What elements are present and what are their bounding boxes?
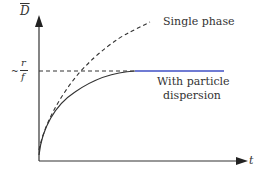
y-tick-numerator: r (21, 57, 26, 68)
y-tick-prefix: ~ (11, 66, 19, 76)
particle-dispersion-curve (39, 71, 135, 155)
y-axis-arrow-icon (35, 15, 43, 27)
particle-dispersion-label-line2: dispersion (163, 89, 221, 102)
particle-dispersion-label-line1: With particle (157, 75, 230, 88)
y-tick-denominator: f (21, 71, 25, 82)
single-phase-label: Single phase (163, 15, 235, 28)
single-phase-curve (39, 22, 150, 150)
x-axis-arrow-icon (236, 157, 248, 165)
y-axis-label: D̄ (20, 4, 30, 18)
x-axis-label: t (249, 154, 253, 167)
